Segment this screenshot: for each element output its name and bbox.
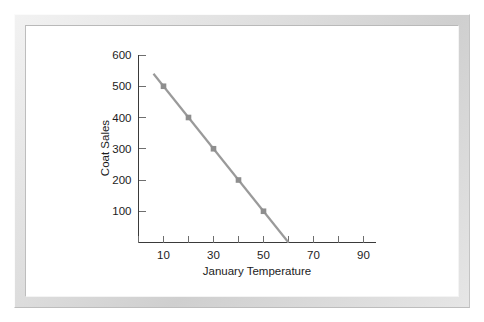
- y-axis-title: Coat Sales: [99, 120, 111, 177]
- data-point: [161, 83, 167, 89]
- y-tick-label: 300: [112, 143, 131, 155]
- chart-svg: 100200300400500600 1030507090 Coat Sales…: [0, 0, 484, 322]
- y-tick-label: 100: [112, 205, 131, 217]
- y-tick-label: 600: [112, 49, 131, 61]
- x-tick-label: 90: [357, 249, 370, 261]
- data-point: [261, 208, 267, 214]
- data-point: [186, 115, 192, 121]
- y-axis-ticks: 100200300400500600: [112, 49, 145, 217]
- x-tick-label: 70: [307, 249, 320, 261]
- data-point: [211, 146, 217, 152]
- data-point: [236, 177, 242, 183]
- x-tick-label: 50: [257, 249, 270, 261]
- x-axis-title: January Temperature: [203, 265, 311, 277]
- x-tick-label: 10: [157, 249, 170, 261]
- data-line-coat-sales: [154, 74, 289, 243]
- y-tick-label: 200: [112, 174, 131, 186]
- x-axis-ticks: 1030507090: [139, 236, 370, 261]
- x-tick-label: 30: [207, 249, 220, 261]
- line-chart: 100200300400500600 1030507090 Coat Sales…: [0, 0, 484, 322]
- y-tick-label: 500: [112, 80, 131, 92]
- y-tick-label: 400: [112, 112, 131, 124]
